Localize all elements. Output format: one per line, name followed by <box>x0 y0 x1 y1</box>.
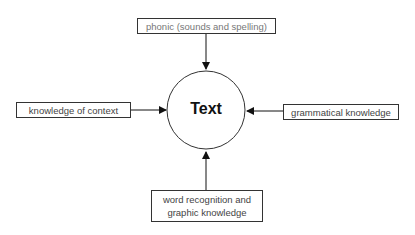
node-phonic: phonic (sounds and spelling) <box>137 18 276 34</box>
node-word-recognition-line1: word recognition and <box>163 193 251 206</box>
node-knowledge-of-context: knowledge of context <box>16 102 131 118</box>
node-phonic-label: phonic (sounds and spelling) <box>146 20 267 33</box>
node-word-recognition-line2: graphic knowledge <box>167 206 246 219</box>
center-label: Text <box>166 100 246 118</box>
node-word-recognition: word recognition and graphic knowledge <box>151 190 263 222</box>
node-context-label: knowledge of context <box>29 104 118 117</box>
node-grammatical-knowledge: grammatical knowledge <box>283 104 399 120</box>
node-grammatical-label: grammatical knowledge <box>291 106 391 119</box>
